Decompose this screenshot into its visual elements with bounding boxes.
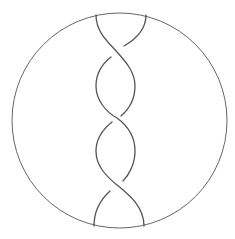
braid-diagram [0, 0, 235, 239]
diagram-svg [0, 0, 235, 239]
strand-b-segment-1 [124, 15, 146, 46]
strand-b-segment-2 [96, 57, 135, 181]
strand-b-segment-3 [94, 191, 110, 226]
strand-a-segment-2 [96, 122, 144, 226]
